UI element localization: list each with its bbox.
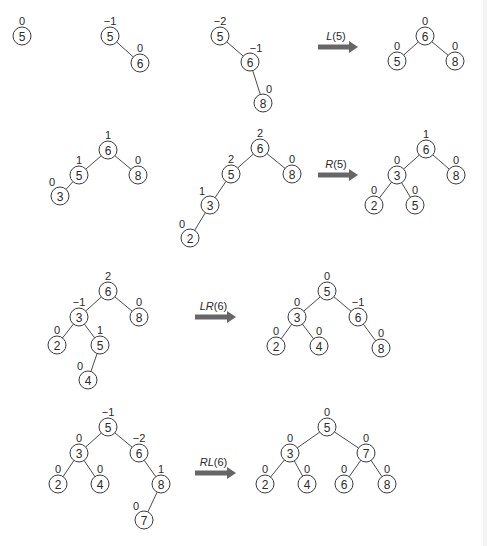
balance-factor: 0 (384, 463, 390, 475)
tree-edge (115, 156, 131, 169)
rotation-arg: (6) (214, 456, 227, 468)
node-key: 6 (355, 311, 362, 325)
tree-node: 62 (99, 270, 117, 300)
tree-edge (432, 42, 448, 55)
balance-factor: 0 (19, 15, 25, 27)
arrow-right-icon (227, 311, 236, 323)
tree-node: 80 (283, 153, 301, 183)
tree-node: 80 (446, 40, 464, 70)
tree-edge (115, 433, 132, 447)
tree-r1-t2 (117, 42, 134, 57)
node-key: 8 (136, 311, 143, 325)
arrow-l5: L(5) (318, 30, 358, 53)
arrow-shaft (195, 315, 227, 320)
rotation-label: R(5) (325, 158, 346, 170)
tree-edge (66, 182, 73, 190)
tree-nodes-r1-t4: 605080 (388, 15, 464, 70)
rotation-arg: (6) (214, 300, 227, 312)
balance-factor: 0 (55, 463, 61, 475)
tree-node: 40 (298, 463, 316, 493)
tree-node: 60 (416, 15, 434, 45)
tree-node: 3−1 (70, 296, 88, 326)
node-key: 4 (304, 478, 311, 492)
node-key: 6 (423, 143, 430, 157)
balance-factor: −1 (352, 296, 365, 308)
tree-node: 60 (335, 463, 353, 493)
tree-node: 50 (13, 15, 31, 45)
balance-factor: 0 (324, 406, 330, 418)
tree-edge (404, 42, 419, 55)
tree-nodes-r3-t1: 623−180205140 (48, 270, 148, 389)
node-key: 3 (57, 190, 64, 204)
balance-factor: 0 (137, 42, 143, 54)
tree-node: 80 (378, 463, 396, 493)
node-key: 5 (324, 285, 331, 299)
tree-edge (86, 297, 102, 311)
tree-node: 6−1 (241, 42, 262, 71)
balance-factor: −2 (133, 432, 146, 444)
balance-factor: 1 (199, 185, 205, 197)
node-key: 6 (257, 142, 264, 156)
node-key: 6 (422, 30, 429, 44)
arrow-rl6: RL(6) (195, 456, 236, 479)
tree-edge (227, 42, 243, 56)
tree-node: 81 (152, 463, 170, 493)
balance-factor: 0 (394, 154, 400, 166)
balance-factor: 1 (97, 324, 103, 336)
node-key: 5 (228, 168, 235, 182)
balance-factor: 0 (304, 463, 310, 475)
tree-edge (349, 460, 361, 476)
node-key: 5 (324, 421, 331, 435)
tree-edge (404, 155, 420, 169)
node-key: 6 (137, 57, 144, 71)
tree-edge (297, 432, 319, 448)
arrow-lr6: LR(6) (195, 300, 236, 323)
tree-node: 31 (199, 185, 219, 214)
tree-node: 50 (388, 40, 406, 70)
balance-factor: 0 (324, 270, 330, 282)
node-key: 5 (217, 30, 224, 44)
tree-edge (379, 182, 391, 198)
balance-factor: 0 (289, 153, 295, 165)
tree-node: 50 (318, 270, 336, 300)
balance-factor: 0 (294, 296, 300, 308)
tree-node: 30 (49, 176, 69, 205)
balance-factor: −1 (104, 15, 117, 27)
node-key: 8 (158, 478, 165, 492)
tree-nodes-r4-t1: 5−1306−220408170 (49, 406, 170, 529)
tree-nodes-r1-t1: 50 (13, 15, 31, 45)
arrow-shaft (195, 471, 227, 476)
tree-edge (84, 460, 95, 476)
tree-node: 60 (131, 42, 149, 72)
balance-factor: 0 (97, 463, 103, 475)
rotation-label: RL(6) (200, 456, 228, 468)
node-key: 5 (97, 339, 104, 353)
tree-edge (215, 181, 226, 197)
rotation-label: L(5) (326, 30, 346, 42)
tree-nodes-r2-t2: 6252803120 (179, 127, 301, 247)
nodes-layer: 505−1605−26−1806050806151803062528031206… (13, 15, 465, 529)
balance-factor: 0 (422, 15, 428, 27)
node-key: 7 (141, 514, 148, 528)
node-key: 6 (247, 56, 254, 70)
node-key: 5 (105, 421, 112, 435)
node-key: 8 (135, 169, 142, 183)
tree-node: 5−1 (99, 406, 117, 436)
tree-node: 80 (372, 327, 390, 357)
rotation-type: R (325, 158, 333, 170)
node-key: 6 (136, 447, 143, 461)
balance-factor: 0 (76, 432, 82, 444)
balance-factor: 1 (76, 154, 82, 166)
balance-factor: −1 (102, 406, 115, 418)
arrow-right-icon (349, 41, 358, 53)
balance-factor: −1 (250, 42, 263, 54)
tree-r2-t2 (195, 154, 285, 231)
tree-edge (63, 460, 74, 476)
balance-factor: 0 (77, 360, 83, 372)
tree-node: 70 (357, 432, 375, 462)
tree-node: 62 (251, 127, 269, 157)
node-key: 6 (105, 144, 112, 158)
balance-factor: 0 (262, 463, 268, 475)
node-key: 2 (273, 340, 280, 354)
tree-node: 5−1 (101, 15, 119, 45)
